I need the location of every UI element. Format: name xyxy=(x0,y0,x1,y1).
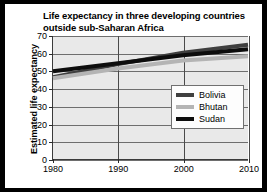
plot-area: 010203040506070 1980199020002010 Bolivia… xyxy=(52,36,248,160)
y-tick-label: 30 xyxy=(37,102,47,112)
x-tick-label: 2000 xyxy=(174,164,194,174)
x-tick-label: 2010 xyxy=(239,164,259,174)
x-tick-label: 1990 xyxy=(108,164,128,174)
figure-canvas: Life expectancy in three developing coun… xyxy=(5,4,262,188)
legend-item-label: Sudan xyxy=(199,114,225,124)
chart-title: Life expectancy in three developing coun… xyxy=(43,10,257,33)
y-tick-label: 70 xyxy=(37,31,47,41)
chart-title-line-2: outside sub-Saharan Africa xyxy=(43,22,257,34)
x-tick-mark xyxy=(184,159,185,163)
legend-item-sudan[interactable]: Sudan xyxy=(176,113,239,125)
legend-item-bhutan[interactable]: Bhutan xyxy=(176,101,239,113)
y-tick-label: 40 xyxy=(37,84,47,94)
y-tick-label: 20 xyxy=(37,120,47,130)
figure-frame: Life expectancy in three developing coun… xyxy=(0,0,267,192)
y-tick-label: 50 xyxy=(37,66,47,76)
y-tick-label: 10 xyxy=(37,137,47,147)
legend-swatch-icon xyxy=(176,93,194,97)
legend-swatch-icon xyxy=(176,117,194,121)
x-tick-mark xyxy=(53,159,54,163)
legend-item-label: Bhutan xyxy=(199,102,228,112)
x-tick-label: 1980 xyxy=(43,164,63,174)
legend-swatch-icon xyxy=(176,105,194,109)
legend-item-label: Bolivia xyxy=(199,90,226,100)
y-tick-label: 60 xyxy=(37,49,47,59)
gridline-vertical xyxy=(249,36,250,159)
x-tick-mark xyxy=(118,159,119,163)
gridline-horizontal xyxy=(53,160,248,161)
legend[interactable]: BoliviaBhutanSudan xyxy=(171,85,244,129)
chart-title-line-1: Life expectancy in three developing coun… xyxy=(43,10,257,22)
legend-item-bolivia[interactable]: Bolivia xyxy=(176,89,239,101)
x-tick-mark xyxy=(249,159,250,163)
